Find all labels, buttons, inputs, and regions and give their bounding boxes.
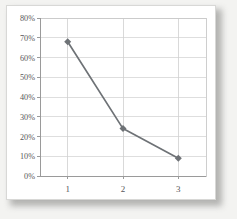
y-tick-label: 70% [20, 34, 35, 43]
y-tick-label: 30% [20, 113, 35, 122]
x-tick-label: 1 [65, 184, 70, 194]
y-tick-label: 0% [24, 172, 35, 181]
y-axis-tick-labels: 80% 70% 60% 50% 40% 30% 20% 10% 0% [20, 14, 35, 181]
line-chart[interactable]: 80% 70% 60% 50% 40% 30% 20% 10% 0% [7, 6, 217, 201]
y-tick-label: 60% [20, 54, 35, 63]
y-tick-label: 40% [20, 93, 35, 102]
chart-svg: 80% 70% 60% 50% 40% 30% 20% 10% 0% [7, 6, 217, 201]
figure-root: 80% 70% 60% 50% 40% 30% 20% 10% 0% [0, 0, 237, 219]
x-tick-label: 2 [121, 184, 126, 194]
y-tick-label: 80% [20, 14, 35, 23]
chart-card: 80% 70% 60% 50% 40% 30% 20% 10% 0% [6, 5, 216, 200]
y-tick-label: 50% [20, 73, 35, 82]
x-tick-label: 3 [176, 184, 181, 194]
y-tick-label: 20% [20, 133, 35, 142]
y-tick-label: 10% [20, 152, 35, 161]
x-axis-tick-labels: 1 2 3 [65, 184, 181, 194]
